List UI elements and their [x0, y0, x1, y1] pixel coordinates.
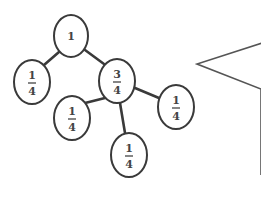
numerator: 1 — [125, 142, 133, 155]
edge-root-to-three-quarters — [85, 50, 104, 64]
denominator: 4 — [113, 84, 121, 97]
denominator: 4 — [28, 85, 36, 98]
numerator: 1 — [28, 69, 36, 82]
node-three-quarters: 34 — [99, 59, 135, 103]
numerator: 1 — [172, 94, 180, 107]
node-label: 1 — [67, 30, 75, 43]
node-left-quarter: 14 — [14, 60, 50, 104]
node-bottom-quarter: 14 — [111, 133, 147, 177]
denominator: 4 — [68, 121, 76, 134]
edge-three-quarters-to-bottom-quarter — [120, 103, 125, 133]
node-root: 1 — [54, 15, 88, 57]
tree-nodes: 11434141414 — [14, 15, 194, 177]
speech-bubble — [197, 43, 261, 175]
numerator: 3 — [113, 68, 121, 81]
edge-root-to-left-quarter — [44, 52, 59, 65]
edge-three-quarters-to-right-quarter — [135, 88, 159, 98]
denominator: 4 — [125, 158, 133, 171]
node-right-quarter: 14 — [158, 85, 194, 129]
numerator: 1 — [68, 105, 76, 118]
node-bottom-left-quarter: 14 — [54, 96, 90, 140]
edge-three-quarters-to-bottom-left-quarter — [85, 98, 105, 103]
fraction-tree-diagram: 11434141414 — [0, 0, 261, 201]
denominator: 4 — [172, 110, 180, 123]
